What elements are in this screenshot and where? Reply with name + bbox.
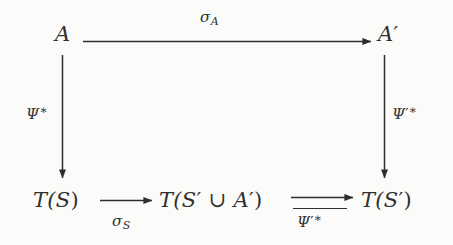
sigma-symbol: σ [112, 212, 122, 230]
asterisk-superscript: ∗ [39, 103, 47, 117]
asterisk-superscript: ∗ [409, 103, 417, 117]
psi-symbol: Ψ [26, 105, 39, 123]
node-a-prime: A′ [378, 24, 399, 45]
node-tsua-close: ) [254, 188, 263, 212]
node-a-label: A [55, 22, 70, 46]
node-t-s: T(S) [33, 190, 79, 211]
psi-symbol: Ψ [297, 213, 310, 231]
sigma-subscript: A [210, 15, 218, 28]
prime-mark: ′ [393, 22, 398, 46]
node-a-prime-base: A [378, 22, 393, 46]
node-tsua-open: T(S [159, 188, 197, 212]
sigma-subscript: S [122, 219, 130, 232]
node-t-s-prime: T(S′) [361, 190, 412, 211]
commutative-diagram: A A′ T(S) T(S′ ∪ A′) T(S′) σA Ψ∗ Ψ′∗ σS … [0, 0, 453, 245]
node-t-s-close: ) [71, 188, 80, 212]
node-a: A [55, 24, 70, 45]
union-icon: ∪ [202, 188, 234, 212]
sigma-symbol: σ [200, 8, 210, 26]
node-t-s-prime-open: T(S [361, 188, 399, 212]
node-t-s-open: T(S [33, 188, 71, 212]
psi-symbol: Ψ [392, 105, 405, 123]
node-t-s-prime-union-a-prime: T(S′ ∪ A′) [159, 190, 262, 211]
node-t-s-prime-close: ) [404, 188, 413, 212]
arrow-label-sigma-s: σS [112, 214, 130, 231]
arrow-label-psi-prime-star-bottom: Ψ′∗ [297, 212, 322, 230]
node-tsua-a: A [233, 188, 248, 212]
arrow-label-psi-prime-star-right: Ψ′∗ [392, 104, 417, 122]
asterisk-superscript: ∗ [314, 211, 322, 225]
arrow-label-psi-star: Ψ∗ [26, 104, 47, 122]
arrow-label-sigma-a: σA [200, 10, 219, 27]
